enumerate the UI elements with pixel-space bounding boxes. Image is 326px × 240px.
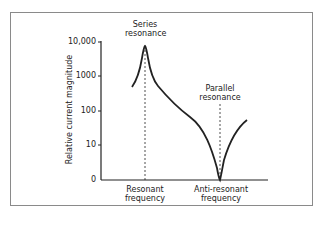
parallel-label-line1: Parallel <box>198 84 242 93</box>
y-axis-label: Relative current magnitude <box>65 55 74 165</box>
series-label-line2: resonance <box>125 29 165 38</box>
y-tick-1000: 1000 <box>56 71 96 80</box>
y-tick-10000: 10,000 <box>56 37 96 46</box>
resonant-label-line2: frequency <box>122 194 168 203</box>
y-tick-0: 0 <box>56 175 96 184</box>
resonant-frequency-label: Resonant frequency <box>122 185 168 203</box>
anti-label-line2: frequency <box>190 194 252 203</box>
parallel-resonance-label: Parallel resonance <box>198 84 242 102</box>
series-label-line1: Series <box>125 20 165 29</box>
current-curve <box>132 46 247 180</box>
series-resonance-label: Series resonance <box>125 20 165 38</box>
y-tick-10: 10 <box>56 140 96 149</box>
anti-label-line1: Anti-resonant <box>190 185 252 194</box>
parallel-label-line2: resonance <box>198 93 242 102</box>
resonant-label-line1: Resonant <box>122 185 168 194</box>
y-tick-100: 100 <box>56 106 96 115</box>
anti-resonant-frequency-label: Anti-resonant frequency <box>190 185 252 203</box>
